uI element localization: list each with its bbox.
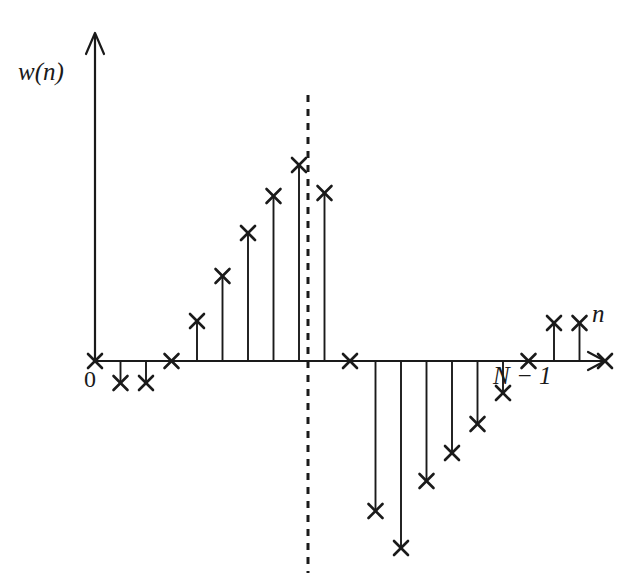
axes-group [86, 33, 605, 370]
stem-plot-canvas [0, 0, 638, 588]
stems-group [121, 165, 580, 548]
end-sample-tick-label: N − 1 [493, 362, 552, 390]
stem-plot-figure: w(n) n 0 N − 1 [0, 0, 638, 588]
origin-tick-label: 0 [84, 366, 96, 393]
markers-group [88, 158, 612, 555]
x-axis-label: n [592, 300, 605, 328]
y-axis-label: w(n) [18, 58, 64, 86]
